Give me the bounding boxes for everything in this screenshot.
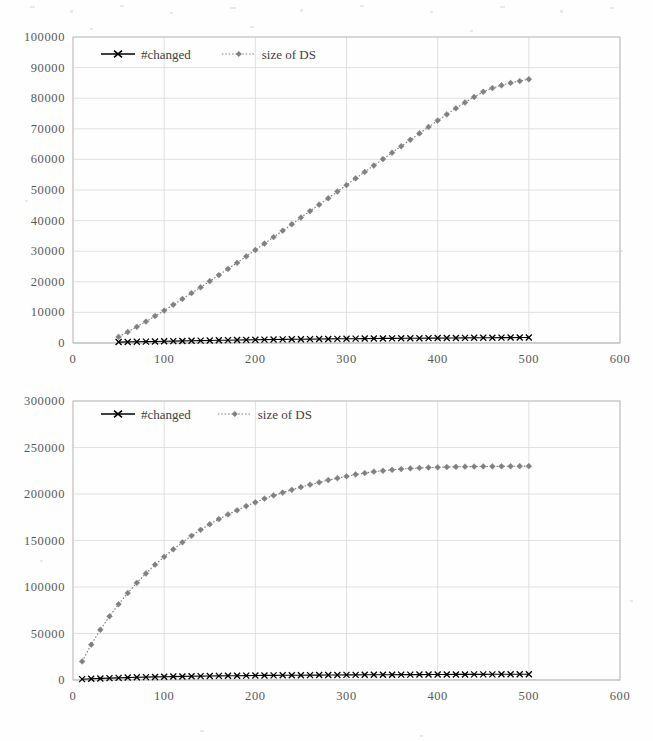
diamond-marker xyxy=(462,100,468,106)
diamond-marker xyxy=(252,247,258,253)
legend-label: #changed xyxy=(141,407,191,422)
y-tick-label: 40000 xyxy=(31,214,65,228)
diamond-marker xyxy=(398,466,404,472)
x-tick-label: 500 xyxy=(519,689,540,703)
y-tick-label: 60000 xyxy=(31,152,65,166)
diamond-marker xyxy=(180,296,186,302)
y-tick-label: 50000 xyxy=(31,183,65,197)
diamond-marker xyxy=(526,463,532,469)
diamond-marker xyxy=(280,490,286,496)
diamond-marker xyxy=(489,463,495,469)
chart-bottom-canvas: 0500001000001500002000002500003000000100… xyxy=(0,385,653,725)
legend: #changedsize of DS xyxy=(101,47,316,62)
diamond-marker xyxy=(234,260,240,266)
diamond-marker xyxy=(471,464,477,470)
legend-entry[interactable]: #changed xyxy=(101,407,191,422)
y-tick-label: 100000 xyxy=(24,580,65,594)
diamond-marker xyxy=(417,465,423,471)
y-axis-tick-labels: 0100002000030000400005000060000700008000… xyxy=(24,30,65,350)
diamond-marker xyxy=(526,76,532,82)
series-line xyxy=(82,466,529,661)
y-tick-label: 50000 xyxy=(31,627,65,641)
diamond-marker xyxy=(389,467,395,473)
diamond-marker xyxy=(225,266,231,272)
diamond-marker xyxy=(380,156,386,162)
legend-label: size of DS xyxy=(262,47,316,62)
diamond-marker xyxy=(79,659,85,665)
diamond-marker xyxy=(97,627,103,633)
chart-top-canvas: 0100002000030000400005000060000700008000… xyxy=(0,18,653,363)
diamond-marker xyxy=(426,465,432,471)
diamond-marker xyxy=(480,464,486,470)
diamond-marker xyxy=(316,202,322,208)
diamond-marker xyxy=(143,319,149,325)
diamond-marker xyxy=(444,464,450,470)
y-tick-label: 0 xyxy=(58,336,65,350)
diamond-marker xyxy=(207,521,213,527)
y-tick-label: 30000 xyxy=(31,244,65,258)
series-changed xyxy=(79,671,532,682)
diamond-marker xyxy=(88,642,94,648)
diamond-marker xyxy=(189,290,195,296)
x-tick-label: 300 xyxy=(336,352,357,363)
diamond-marker xyxy=(362,470,368,476)
y-tick-label: 90000 xyxy=(31,61,65,75)
y-tick-label: 80000 xyxy=(31,91,65,105)
y-tick-label: 10000 xyxy=(31,305,65,319)
diamond-marker xyxy=(134,324,140,330)
x-tick-label: 100 xyxy=(154,352,175,363)
series-size-of-ds xyxy=(79,463,532,664)
diamond-marker xyxy=(116,334,122,340)
diamond-marker xyxy=(353,472,359,478)
diamond-marker xyxy=(243,503,249,509)
diamond-marker xyxy=(152,313,158,319)
diamond-marker xyxy=(216,272,222,278)
diamond-marker xyxy=(289,221,295,227)
grid-lines xyxy=(73,401,620,680)
y-tick-label: 250000 xyxy=(24,441,65,455)
diamond-marker xyxy=(216,516,222,522)
diamond-marker xyxy=(462,464,468,470)
legend-entry[interactable]: size of DS xyxy=(218,407,312,422)
diamond-marker xyxy=(232,411,238,417)
series-line xyxy=(82,674,529,679)
x-tick-label: 300 xyxy=(336,689,357,703)
x-tick-label: 100 xyxy=(154,689,175,703)
diamond-marker xyxy=(170,546,176,552)
diamond-marker xyxy=(252,499,258,505)
diamond-marker xyxy=(508,80,514,86)
x-tick-label: 200 xyxy=(245,352,266,363)
x-tick-label: 0 xyxy=(70,352,77,363)
x-tick-label: 600 xyxy=(610,352,631,363)
legend: #changedsize of DS xyxy=(101,407,312,422)
diamond-marker xyxy=(225,512,231,518)
y-tick-label: 20000 xyxy=(31,275,65,289)
legend-entry[interactable]: #changed xyxy=(101,47,191,62)
x-tick-label: 500 xyxy=(519,352,540,363)
diamond-marker xyxy=(499,82,505,88)
x-tick-label: 200 xyxy=(245,689,266,703)
diamond-marker xyxy=(236,51,242,57)
legend-entry[interactable]: size of DS xyxy=(222,47,316,62)
diamond-marker xyxy=(325,477,331,483)
diamond-marker xyxy=(453,105,459,111)
diamond-marker xyxy=(453,464,459,470)
diamond-marker xyxy=(517,78,523,84)
y-tick-label: 150000 xyxy=(24,534,65,548)
diamond-marker xyxy=(471,94,477,100)
diamond-marker xyxy=(170,302,176,308)
x-axis-tick-labels: 0100200300400500600 xyxy=(70,689,631,703)
diamond-marker xyxy=(262,496,268,502)
y-tick-label: 100000 xyxy=(24,30,65,44)
diamond-marker xyxy=(271,492,277,498)
x-tick-label: 400 xyxy=(427,352,448,363)
diamond-marker xyxy=(289,487,295,493)
diamond-marker xyxy=(344,473,350,479)
diamond-marker xyxy=(334,475,340,481)
diamond-marker xyxy=(125,329,131,335)
x-tick-label: 400 xyxy=(427,689,448,703)
diamond-marker xyxy=(508,463,514,469)
x-tick-label: 0 xyxy=(70,689,77,703)
series-size-of-ds xyxy=(116,76,532,339)
diamond-marker xyxy=(152,562,158,568)
